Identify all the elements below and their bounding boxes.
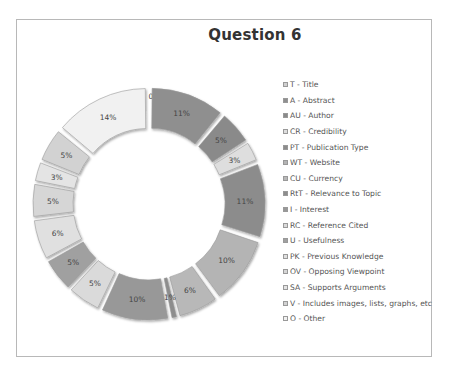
segment-label: 3% — [229, 156, 241, 165]
legend-item: SA - Supports Arguments — [283, 280, 443, 296]
segment-label: 11% — [173, 109, 190, 118]
legend-item: T - Title — [283, 77, 443, 93]
legend-item: V - Includes images, lists, graphs, etc — [283, 295, 443, 311]
chart-legend: T - TitleA - AbstractAU - AuthorCR - Cre… — [283, 77, 443, 327]
segment-label: 6% — [52, 229, 64, 238]
legend-label: PT - Publication Type — [290, 143, 368, 152]
legend-item: AU - Author — [283, 108, 443, 124]
legend-label: I - Interest — [290, 205, 329, 214]
chart-frame: Question 6 0%11%5%3%11%10%6%1%10%5%5%6%5… — [16, 19, 432, 357]
segment-label: 1% — [164, 293, 176, 302]
legend-label: A - Abstract — [290, 96, 335, 105]
segment-label: 11% — [237, 197, 254, 206]
segment-label: 5% — [47, 197, 59, 206]
legend-swatch — [283, 269, 288, 274]
legend-item: U - Usefulness — [283, 233, 443, 249]
legend-label: AU - Author — [290, 111, 334, 120]
legend-swatch — [283, 82, 288, 87]
legend-swatch — [283, 223, 288, 228]
legend-swatch — [283, 316, 288, 321]
legend-item: RtT - Relevance to Topic — [283, 186, 443, 202]
legend-label: V - Includes images, lists, graphs, etc — [290, 299, 432, 308]
legend-item: PK - Previous Knowledge — [283, 249, 443, 265]
legend-item: A - Abstract — [283, 93, 443, 109]
segment-label: 5% — [89, 279, 101, 288]
legend-swatch — [283, 98, 288, 103]
segment-label: 6% — [184, 286, 196, 295]
donut-segments: 0%11%5%3%11%10%6%1%10%5%5%6%5%3%5%14% — [33, 88, 265, 320]
legend-swatch — [283, 160, 288, 165]
legend-label: T - Title — [290, 80, 318, 89]
legend-swatch — [283, 129, 288, 134]
legend-item: I - Interest — [283, 202, 443, 218]
legend-swatch — [283, 238, 288, 243]
legend-swatch — [283, 285, 288, 290]
segment-label: 10% — [129, 295, 146, 304]
legend-label: SA - Supports Arguments — [290, 283, 386, 292]
segment-label: 3% — [51, 173, 63, 182]
legend-label: O - Other — [290, 314, 325, 323]
segment-label: 10% — [218, 256, 235, 265]
segment-label: 5% — [60, 151, 72, 160]
legend-swatch — [283, 113, 288, 118]
legend-label: U - Usefulness — [290, 236, 344, 245]
legend-item: PT - Publication Type — [283, 139, 443, 155]
legend-label: RtT - Relevance to Topic — [290, 189, 381, 198]
legend-swatch — [283, 254, 288, 259]
legend-label: PK - Previous Knowledge — [290, 252, 383, 261]
legend-label: CR - Credibility — [290, 127, 347, 136]
legend-item: RC - Reference Cited — [283, 217, 443, 233]
legend-label: WT - Website — [290, 158, 340, 167]
legend-label: RC - Reference Cited — [290, 221, 368, 230]
legend-label: OV - Opposing Viewpoint — [290, 267, 384, 276]
legend-item: CU - Currency — [283, 171, 443, 187]
legend-item: WT - Website — [283, 155, 443, 171]
segment-label: 5% — [67, 258, 79, 267]
legend-item: O - Other — [283, 311, 443, 327]
legend-item: OV - Opposing Viewpoint — [283, 264, 443, 280]
legend-swatch — [283, 207, 288, 212]
legend-swatch — [283, 176, 288, 181]
segment-label: 5% — [215, 136, 227, 145]
segment-label: 14% — [100, 113, 117, 122]
legend-item: CR - Credibility — [283, 124, 443, 140]
legend-swatch — [283, 191, 288, 196]
legend-label: CU - Currency — [290, 174, 343, 183]
legend-swatch — [283, 145, 288, 150]
legend-swatch — [283, 301, 288, 306]
